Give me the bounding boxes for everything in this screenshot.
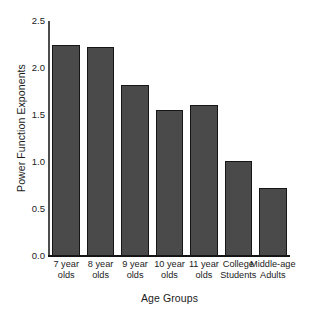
y-tick-label: 1.5 <box>0 110 45 120</box>
y-tick-label: 2.5 <box>0 16 45 26</box>
bar <box>87 47 115 256</box>
bar <box>156 110 184 256</box>
plot-area <box>49 21 290 256</box>
bar <box>225 161 253 256</box>
bar <box>52 45 80 256</box>
bar <box>259 188 287 256</box>
x-tick-label-line: Adults <box>230 270 316 281</box>
bar <box>190 105 218 256</box>
x-axis-tick-labels: 7 yearolds8 yearolds9 yearolds10 yearold… <box>49 259 290 293</box>
x-tick-label-line: Middle-age <box>230 259 316 270</box>
y-tick-label: 1.0 <box>0 157 45 167</box>
bar <box>121 85 149 256</box>
x-tick-label: Middle-ageAdults <box>230 259 316 282</box>
x-axis-title: Age Groups <box>49 292 290 304</box>
y-tick-label: 2.0 <box>0 63 45 73</box>
bar-chart-figure: Power Function Exponents 0.00.51.01.52.0… <box>0 0 326 315</box>
y-tick-label: 0.5 <box>0 204 45 214</box>
